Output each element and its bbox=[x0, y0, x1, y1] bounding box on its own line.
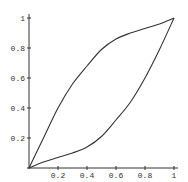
x-tick-label: 0.2 bbox=[51, 171, 66, 180]
y-ticks: 0.20.40.60.81 bbox=[11, 14, 31, 143]
x-tick-label: 0.4 bbox=[80, 171, 95, 180]
x-tick-label: 0.8 bbox=[138, 171, 153, 180]
x-tick-label: 0.6 bbox=[109, 171, 124, 180]
series-line bbox=[29, 18, 174, 168]
series-line bbox=[29, 18, 174, 168]
chart-canvas: 0.20.40.60.81 0.20.40.60.81 bbox=[0, 0, 188, 182]
axes bbox=[27, 14, 178, 169]
plot-series bbox=[29, 18, 174, 168]
y-tick-label: 1 bbox=[20, 14, 25, 23]
y-tick-label: 0.6 bbox=[11, 74, 26, 83]
x-tick-label: 1 bbox=[172, 171, 177, 180]
y-tick-label: 0.8 bbox=[11, 44, 26, 53]
y-tick-label: 0.4 bbox=[11, 104, 26, 113]
y-tick-label: 0.2 bbox=[11, 134, 26, 143]
